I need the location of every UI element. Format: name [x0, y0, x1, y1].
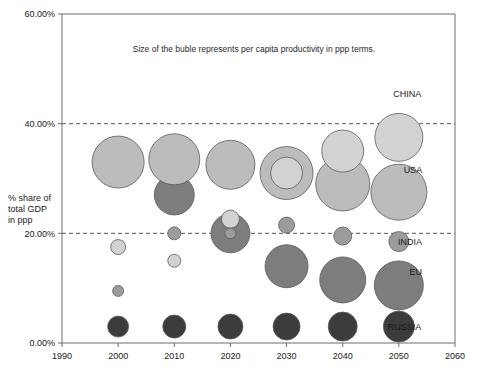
bubble-india-2020[interactable] — [225, 228, 236, 239]
x-tick-labels: 19902000201020202030204020502060 — [52, 351, 465, 361]
x-tick-label-2010: 2010 — [164, 351, 184, 361]
bubble-layer — [92, 113, 427, 342]
bubble-china-2040[interactable] — [322, 130, 364, 172]
bubble-russia-2020[interactable] — [218, 314, 243, 339]
x-tick-label-2040: 2040 — [333, 351, 353, 361]
x-tick-label-2030: 2030 — [277, 351, 297, 361]
x-tick-label-2060: 2060 — [445, 351, 465, 361]
y-tick-label-20: 20.00% — [24, 229, 55, 239]
y-axis-title: % share oftotal GDPin ppp — [8, 193, 52, 225]
bubble-chart: 19902000201020202030204020502060 0.00%20… — [0, 0, 477, 370]
y-tick-label-60: 60.00% — [24, 9, 55, 19]
x-tick-label-2050: 2050 — [389, 351, 409, 361]
bubble-india-2040[interactable] — [334, 227, 352, 245]
bubble-usa-2000[interactable] — [92, 136, 144, 188]
chart-annotation: Size of the buble represents per capita … — [133, 44, 375, 54]
series-label-russia: RUSSIA — [388, 322, 422, 332]
y-tick-label-0: 0.00% — [29, 338, 55, 348]
y-axis-title-line-0: % share of — [8, 193, 52, 203]
bubble-india-2030[interactable] — [279, 217, 295, 233]
bubble-china-2030[interactable] — [271, 157, 303, 189]
bubble-china-2010[interactable] — [168, 254, 181, 267]
bubble-china-2050[interactable] — [375, 113, 423, 161]
series-label-usa: USA — [404, 165, 423, 175]
bubble-russia-2030[interactable] — [273, 313, 300, 340]
bubble-russia-2010[interactable] — [163, 315, 186, 338]
y-tick-labels: 0.00%20.00%40.00%60.00% — [24, 9, 55, 348]
x-tick-label-2020: 2020 — [220, 351, 240, 361]
bubble-eu-2030[interactable] — [265, 245, 308, 288]
series-label-india: INDIA — [398, 237, 422, 247]
bubble-india-2000[interactable] — [113, 285, 124, 296]
y-axis-title-line-1: total GDP — [8, 204, 47, 214]
series-label-china: CHINA — [393, 89, 421, 99]
bubble-china-2000[interactable] — [111, 240, 126, 255]
x-tick-label-2000: 2000 — [108, 351, 128, 361]
x-tick-label-1990: 1990 — [52, 351, 72, 361]
bubble-usa-2020[interactable] — [206, 140, 255, 189]
series-label-eu: EU — [409, 267, 422, 277]
y-tick-label-40: 40.00% — [24, 119, 55, 129]
bubble-india-2010[interactable] — [168, 227, 181, 240]
bubble-eu-2040[interactable] — [320, 257, 366, 303]
bubble-china-2020[interactable] — [221, 210, 239, 228]
bubble-usa-2010[interactable] — [149, 134, 200, 185]
bubble-russia-2040[interactable] — [328, 312, 357, 341]
y-axis-title-line-2: in ppp — [8, 215, 33, 225]
annotation-text: Size of the buble represents per capita … — [133, 44, 375, 54]
chart-canvas: 19902000201020202030204020502060 0.00%20… — [0, 0, 477, 370]
bubble-russia-2000[interactable] — [108, 316, 129, 337]
